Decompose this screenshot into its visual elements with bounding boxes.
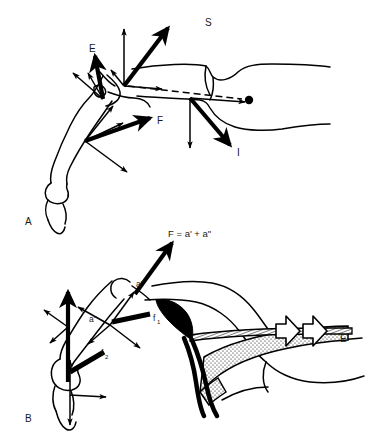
vector-label-I: I xyxy=(237,147,240,158)
anatomical-figure-canvas: S E F I A xyxy=(0,0,371,441)
vector-label-E-b: E xyxy=(340,333,347,344)
vector-label-a-double-prime: a" xyxy=(89,314,97,324)
panel-letter-b: B xyxy=(25,413,32,424)
panel-a-axis-endpoint-dot xyxy=(245,96,253,104)
equation-F: F = a' + a" xyxy=(168,228,211,239)
vector-label-F: F xyxy=(157,115,163,126)
vector-label-S: S xyxy=(205,17,212,28)
figure-root: S E F I A xyxy=(0,0,371,441)
panel-letter-a: A xyxy=(25,216,32,227)
vector-label-a-prime: a' xyxy=(136,279,143,289)
vector-label-E: E xyxy=(89,43,96,54)
